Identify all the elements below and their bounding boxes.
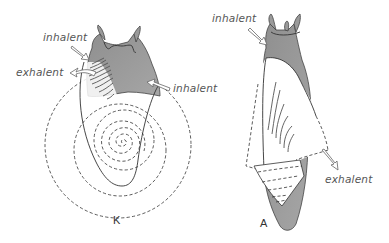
panel-k: inhalent exhalent inhalent K [16, 25, 218, 226]
inhalent-arrow-left [71, 46, 89, 60]
mollusc-diagram: inhalent exhalent inhalent K [0, 0, 389, 243]
label-exhalent: exhalent [325, 173, 373, 185]
shell-outer-whorl [45, 72, 191, 218]
label-inhalent-left: inhalent [43, 31, 88, 43]
exhalent-arrow [322, 149, 338, 170]
right-tentacle-icon [294, 14, 300, 32]
label-inhalent: inhalent [212, 12, 257, 24]
center-tentacle-icon [285, 21, 289, 31]
panel-a: inhalent exhalent A [212, 12, 373, 230]
caption-k: K [113, 214, 121, 226]
label-inhalent-right: inhalent [173, 82, 218, 94]
caption-a: A [260, 217, 268, 229]
label-exhalent: exhalent [16, 66, 64, 78]
inhalent-arrow [248, 28, 267, 45]
